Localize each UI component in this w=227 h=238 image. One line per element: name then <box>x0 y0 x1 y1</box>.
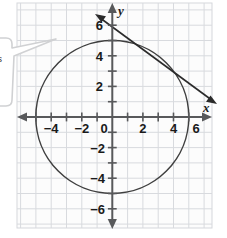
x-tick-label--2: −2 <box>74 121 89 136</box>
x-axis-name: x <box>202 100 210 115</box>
origin-label: 0 <box>100 121 107 136</box>
x-tick-label-6: 6 <box>192 121 199 136</box>
y-tick-label-6: 6 <box>96 18 103 33</box>
y-tick-label--4: −4 <box>90 171 106 186</box>
y-tick-label--6: −6 <box>90 202 105 217</box>
y-tick-label-4: 4 <box>96 49 104 64</box>
x-tick-label-2: 2 <box>139 121 146 136</box>
graph-svg: −4 −2 2 4 6 0 6 4 2 −2 −4 −6 y x s <box>0 0 227 238</box>
x-tick-label--4: −4 <box>44 121 60 136</box>
x-tick-label-4: 4 <box>170 121 178 136</box>
y-axis-name: y <box>116 3 124 18</box>
y-tick-label-2: 2 <box>96 79 103 94</box>
y-tick-label--2: −2 <box>90 141 105 156</box>
coordinate-plane-figure: −4 −2 2 4 6 0 6 4 2 −2 −4 −6 y x s <box>0 0 227 238</box>
